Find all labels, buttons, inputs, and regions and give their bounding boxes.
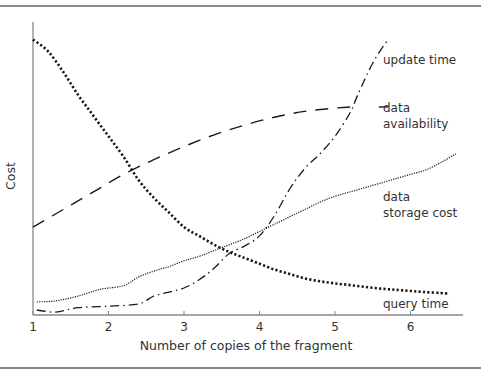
- x-tick-label: 6: [407, 320, 415, 334]
- x-tick-label: 1: [29, 320, 37, 334]
- series-data-availability: [33, 107, 358, 227]
- series-update-time: [37, 40, 388, 313]
- label-query-time: query time: [383, 296, 449, 312]
- x-tick-label: 2: [105, 320, 113, 334]
- series-data-storage-cost: [37, 154, 456, 302]
- label-update-time: update time: [383, 52, 456, 68]
- x-axis-label: Number of copies of the fragment: [140, 338, 353, 353]
- label-data-availability: data availability: [383, 100, 448, 132]
- x-tick-label: 5: [331, 320, 339, 334]
- x-tick-label: 3: [180, 320, 188, 334]
- series-query-time: [33, 40, 448, 294]
- label-data-storage-cost: data storage cost: [383, 189, 457, 221]
- y-axis-label: Cost: [3, 162, 18, 190]
- x-tick-label: 4: [256, 320, 264, 334]
- chart-series: [33, 40, 456, 313]
